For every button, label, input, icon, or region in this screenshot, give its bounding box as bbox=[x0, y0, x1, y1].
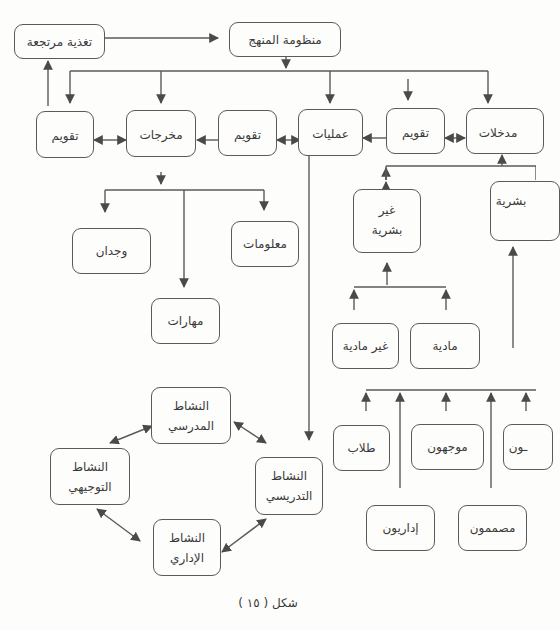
node-label-line2: التوجيهي bbox=[68, 477, 111, 497]
node-evaluation-3: تقويم bbox=[36, 111, 94, 158]
node-evaluation-2: تقويم bbox=[218, 110, 277, 156]
node-label: مصممون bbox=[470, 517, 516, 539]
node-admin-activity: النشاط الإداري bbox=[153, 519, 221, 576]
node-label: وجدان bbox=[96, 240, 128, 262]
node-label: مهارات bbox=[167, 310, 203, 332]
node-label: تغذية مرتجعة bbox=[27, 31, 92, 53]
node-label: عمليات bbox=[312, 123, 349, 145]
node-label: بشرية bbox=[496, 190, 526, 212]
node-teachers-partial: ـون bbox=[503, 424, 553, 470]
node-label: موجهون bbox=[427, 436, 468, 458]
figure-caption: شكل ( ١٥ ) bbox=[0, 596, 536, 610]
node-label: إداريون bbox=[382, 517, 418, 539]
node-human: بشرية bbox=[490, 181, 560, 241]
node-feedback: تغذية مرتجعة bbox=[14, 24, 105, 59]
node-curriculum-system: منظومة المنهج bbox=[229, 22, 341, 57]
node-label: طلاب bbox=[348, 437, 376, 459]
node-label-line1: غير bbox=[379, 200, 396, 220]
node-knowledge: معلومات bbox=[231, 221, 299, 267]
node-processes: عمليات bbox=[298, 109, 363, 156]
node-designers: مصممون bbox=[458, 505, 527, 551]
node-label-line2: بشرية bbox=[372, 220, 402, 240]
node-label: غير مادية bbox=[343, 335, 389, 357]
node-label: تقويم bbox=[234, 124, 261, 146]
node-school-activity: النشاط المدرسي bbox=[151, 387, 231, 444]
node-label-line1: النشاط bbox=[72, 457, 108, 477]
node-guidance-activity: النشاط التوجيهي bbox=[50, 448, 130, 505]
node-label: مدخلات bbox=[479, 122, 518, 144]
node-label-line1: النشاط bbox=[271, 466, 307, 486]
node-supervisors: موجهون bbox=[411, 424, 484, 470]
node-students: طلاب bbox=[333, 425, 390, 471]
node-non-human: غير بشرية bbox=[353, 189, 421, 253]
node-label: تقويم bbox=[52, 125, 79, 147]
node-affect: وجدان bbox=[72, 228, 151, 274]
node-outputs: مخرجات bbox=[126, 110, 196, 157]
node-label: معلومات bbox=[243, 233, 287, 255]
node-skills: مهارات bbox=[151, 298, 220, 344]
node-administrators: إداريون bbox=[366, 505, 435, 551]
node-label-line2: الإداري bbox=[170, 548, 204, 568]
node-evaluation-1: تقويم bbox=[386, 108, 445, 154]
node-label-line1: النشاط bbox=[173, 396, 209, 416]
node-label-line1: النشاط bbox=[169, 528, 205, 548]
node-label: مادية bbox=[432, 335, 457, 357]
node-teaching-activity: النشاط التدريسي bbox=[255, 457, 323, 515]
node-inputs: مدخلات bbox=[466, 108, 544, 154]
node-label: منظومة المنهج bbox=[248, 29, 322, 51]
node-non-material: غير مادية bbox=[332, 323, 399, 369]
node-label-line2: المدرسي bbox=[168, 416, 214, 436]
node-label: مخرجات bbox=[139, 124, 182, 146]
node-label: تقويم bbox=[402, 122, 429, 144]
node-material: مادية bbox=[410, 323, 480, 369]
node-label-line2: التدريسي bbox=[266, 486, 313, 506]
node-label: ـون bbox=[509, 436, 528, 458]
